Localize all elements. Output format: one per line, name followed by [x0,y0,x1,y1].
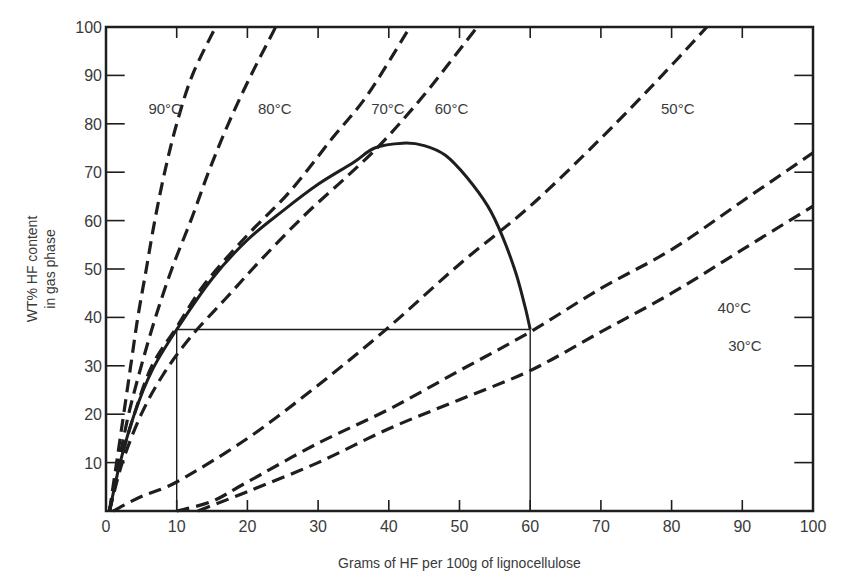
curve-label-80c: 80°C [258,100,292,117]
y-tick-label: 30 [84,358,102,375]
curve-label-90c: 90°C [148,100,182,117]
isotherm-30c-curve [198,206,813,511]
x-tick-label: 0 [102,518,111,535]
phase-equilibrium-chart: 90°C80°C70°C60°C50°C40°C30°C 01020304050… [0,0,843,582]
curve-label-30c: 30°C [728,337,762,354]
y-tick-label: 50 [84,261,102,278]
y-axis-tick-labels: 102030405060708090100 [75,19,102,472]
x-tick-label: 30 [309,518,327,535]
x-tick-label: 20 [239,518,257,535]
y-tick-label: 20 [84,406,102,423]
curve-labels: 90°C80°C70°C60°C50°C40°C30°C [148,100,761,354]
y-axis-title-line-2: in gas phase [42,229,58,309]
x-tick-label: 80 [663,518,681,535]
x-tick-label: 70 [592,518,610,535]
y-tick-label: 90 [84,67,102,84]
y-tick-label: 60 [84,213,102,230]
y-axis-title: WT% HF content in gas phase [24,216,58,323]
curve-label-40c: 40°C [718,299,752,316]
curve-label-50c: 50°C [661,100,695,117]
y-axis-title-line-1: WT% HF content [24,216,40,323]
x-tick-label: 40 [380,518,398,535]
x-tick-label: 100 [800,518,827,535]
x-tick-label: 60 [521,518,539,535]
y-tick-label: 70 [84,164,102,181]
envelope-curve [110,143,531,511]
x-axis-title: Grams of HF per 100g of lignocellulose [338,555,581,571]
curve-label-60c: 60°C [435,100,469,117]
y-tick-label: 80 [84,116,102,133]
x-tick-label: 50 [451,518,469,535]
isotherm-40c-curve [177,153,813,511]
isotherm-50c-curve [113,27,707,511]
y-tick-label: 10 [84,455,102,472]
x-tick-label: 10 [168,518,186,535]
y-tick-label: 40 [84,309,102,326]
y-tick-label: 100 [75,19,102,36]
curve-label-70c: 70°C [371,100,405,117]
x-axis-tick-labels: 0102030405060708090100 [102,518,827,535]
x-tick-label: 90 [733,518,751,535]
